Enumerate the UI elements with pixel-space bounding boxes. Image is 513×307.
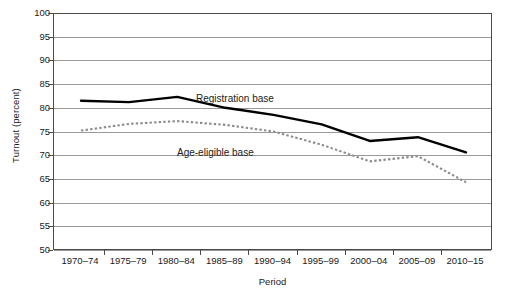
x-tick-label-7: 2005–09: [398, 256, 435, 266]
x-tick-label-2: 1980–84: [158, 256, 195, 266]
series-layer: [54, 13, 493, 250]
x-tick-label-6: 2000–04: [350, 256, 387, 266]
x-tick-label-3: 1985–89: [206, 256, 243, 266]
x-axis-title: Period: [53, 276, 492, 287]
x-tick-mark-3: [200, 250, 201, 255]
x-axis-tick-labels: 1970–741975–791980–841985–891990–941995–…: [53, 256, 492, 272]
x-tick-mark-7: [393, 250, 394, 255]
y-axis-tick-labels: 50556065707580859095100: [22, 13, 50, 250]
x-tick-mark-6: [345, 250, 346, 255]
x-tick-mark-4: [248, 250, 249, 255]
x-tick-label-1: 1975–79: [110, 256, 147, 266]
x-tick-mark-8: [441, 250, 442, 255]
x-tick-label-5: 1995–99: [302, 256, 339, 266]
plot-area: [53, 13, 492, 250]
x-tick-mark-2: [152, 250, 153, 255]
series-label-registration-base: Registration base: [196, 94, 274, 104]
y-axis-title-text: Turnout (percent): [10, 88, 21, 163]
x-tick-label-4: 1990–94: [254, 256, 291, 266]
series-label-age-eligible-base: Age-eligible base: [177, 148, 254, 158]
turnout-line-chart: Turnout (percent) 5055606570758085909510…: [0, 0, 513, 307]
series-line-age-eligible-base: [81, 121, 466, 182]
x-tick-label-0: 1970–74: [62, 256, 99, 266]
x-tick-label-8: 2010–15: [447, 256, 484, 266]
x-tick-mark-1: [104, 250, 105, 255]
series-line-registration-base: [81, 97, 466, 152]
x-tick-mark-5: [297, 250, 298, 255]
